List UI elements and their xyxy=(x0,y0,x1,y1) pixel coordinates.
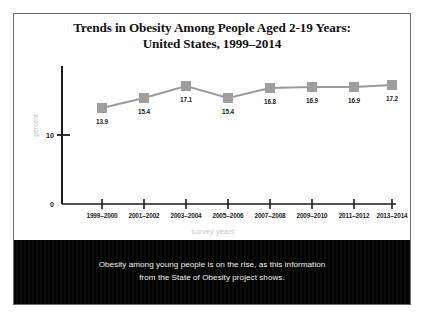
x-tick-label-1: 2001–2002 xyxy=(120,212,168,219)
data-point-marker xyxy=(349,82,359,92)
x-tick-label-2: 2003–2004 xyxy=(162,212,210,219)
data-point-marker xyxy=(265,83,275,93)
caption-line-1: Obesity among young people is on the ris… xyxy=(99,259,326,272)
data-point-marker xyxy=(387,80,397,90)
data-point-label-5: 16.9 xyxy=(299,97,325,104)
chart-svg xyxy=(14,14,411,242)
y-axis-title: percent xyxy=(32,96,39,156)
data-point-marker xyxy=(139,93,149,103)
data-point-label-6: 16.9 xyxy=(341,97,367,104)
chart-plot-region: Trends in Obesity Among People Aged 2-19… xyxy=(14,14,410,242)
line-chart: 10 0 percent survey years 1999–2000 2001… xyxy=(14,14,411,242)
data-point-marker xyxy=(307,82,317,92)
x-tick-label-4: 2007–2008 xyxy=(246,212,294,219)
clipped-page-text-fragment xyxy=(0,0,424,6)
x-tick-label-5: 2009–2010 xyxy=(288,212,336,219)
data-point-label-1: 15.4 xyxy=(131,108,157,115)
data-point-marker xyxy=(181,81,191,91)
data-point-marker xyxy=(223,93,233,103)
caption-line-2: from the State of Obesity project shows. xyxy=(139,272,285,285)
data-point-label-4: 16.8 xyxy=(257,98,283,105)
data-point-label-3: 15.4 xyxy=(215,108,241,115)
data-point-label-0: 13.9 xyxy=(89,118,115,125)
x-axis-title: survey years xyxy=(14,228,411,235)
data-point-label-7: 17.2 xyxy=(379,95,405,102)
x-tick-label-3: 2005–2006 xyxy=(204,212,252,219)
caption-banner: Obesity among young people is on the ris… xyxy=(14,240,410,304)
x-tick-label-7: 2013–2014 xyxy=(368,212,411,219)
x-tick-label-0: 1999–2000 xyxy=(78,212,126,219)
chart-figure-frame: Trends in Obesity Among People Aged 2-19… xyxy=(13,13,411,305)
y-tick-label-0: 0 xyxy=(38,200,54,209)
data-point-label-2: 17.1 xyxy=(173,96,199,103)
y-tick-label-10: 10 xyxy=(38,131,54,140)
data-point-marker xyxy=(97,103,107,113)
